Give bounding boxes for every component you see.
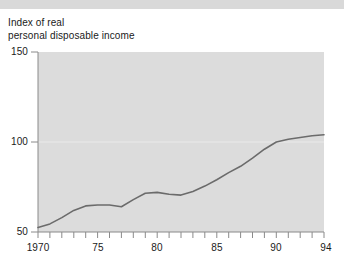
chart-figure: Index of real personal disposable income xyxy=(0,0,344,268)
x-axis-label-75: 75 xyxy=(86,242,110,253)
y-axis-label-100: 100 xyxy=(2,136,28,147)
line-chart-svg xyxy=(0,0,344,268)
x-axis-label-80: 80 xyxy=(145,242,169,253)
y-axis-label-50: 50 xyxy=(2,226,28,237)
x-tick-marks xyxy=(38,232,324,238)
plot-area-wrapper: 150 100 50 1970 75 80 85 90 94 xyxy=(0,0,344,268)
x-axis-label-90: 90 xyxy=(264,242,288,253)
x-axis-label-1970: 1970 xyxy=(22,242,54,253)
x-axis-label-85: 85 xyxy=(205,242,229,253)
x-axis-label-94: 94 xyxy=(314,242,338,253)
y-axis-label-150: 150 xyxy=(2,46,28,57)
